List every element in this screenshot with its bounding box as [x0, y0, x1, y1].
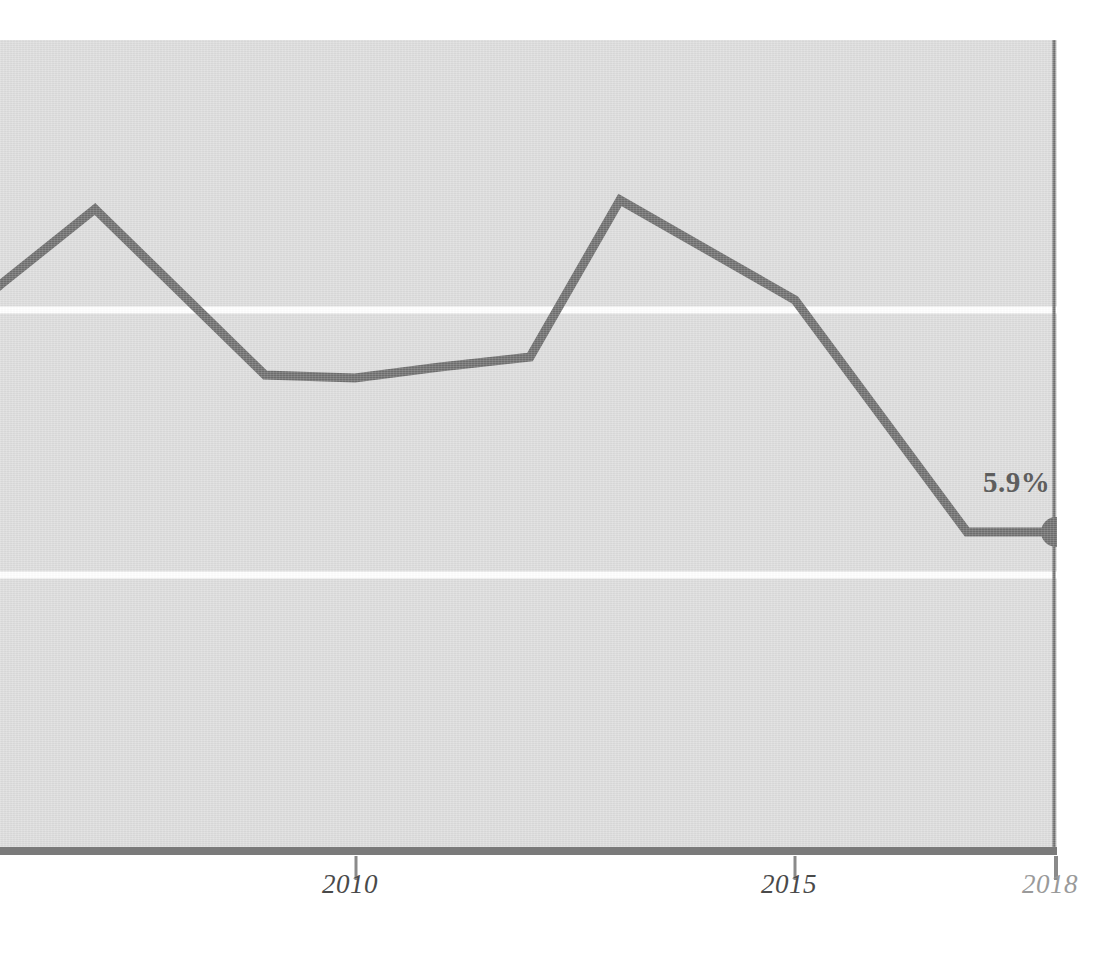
x-tick-label-2015: 2015: [761, 869, 817, 900]
line-chart-svg: [0, 40, 1057, 851]
end-point-marker: [1041, 517, 1057, 547]
plot-area: [0, 40, 1057, 851]
x-tick-label-2018: 2018: [1022, 869, 1078, 900]
chart-figure: 2010 2015 2018 5.9%: [0, 0, 1116, 957]
series-line: [0, 200, 1056, 532]
data-series-rate: [0, 200, 1056, 532]
x-tick-label-2010: 2010: [322, 869, 378, 900]
